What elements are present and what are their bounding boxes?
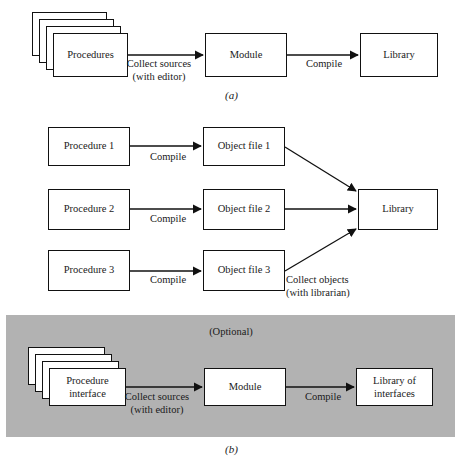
collect-objects-line1: Collect objects (286, 274, 370, 287)
procedure-interface-line2: interface (69, 387, 106, 400)
node-procedure-1[interactable]: Procedure 1 (48, 127, 130, 166)
node-library-a[interactable]: Library (360, 33, 438, 77)
node-library-of-interfaces[interactable]: Library of interfaces (356, 368, 433, 406)
caption-a: (a) (0, 89, 463, 101)
node-object-file-3[interactable]: Object file 3 (203, 250, 285, 291)
edge-label-compile-1: Compile (134, 151, 202, 164)
edge-label-collect-sources-a: Collect sources (with editor) (123, 58, 195, 84)
collect-sources-a-line1: Collect sources (123, 58, 195, 71)
node-module-a[interactable]: Module (205, 33, 287, 77)
edge-label-compile-a: Compile (292, 58, 356, 71)
figure-root: Procedures Module Library Collect source… (0, 0, 463, 464)
edge-label-collect-sources-b: Collect sources (with editor) (121, 391, 193, 417)
edge-label-collect-objects: Collect objects (with librarian) (286, 274, 370, 300)
node-procedure-interface[interactable]: Procedure interface (49, 368, 126, 406)
arrow-object-file-1-to-library (285, 147, 356, 191)
collect-sources-a-line2: (with editor) (123, 71, 195, 84)
node-module-b[interactable]: Module (204, 368, 286, 406)
node-procedures[interactable]: Procedures (53, 33, 128, 77)
node-object-file-2[interactable]: Object file 2 (203, 189, 285, 230)
optional-panel-label: (Optional) (181, 326, 281, 339)
edge-label-compile-2: Compile (134, 213, 202, 226)
collect-sources-b-line2: (with editor) (121, 404, 193, 417)
node-procedure-3[interactable]: Procedure 3 (48, 250, 130, 291)
arrow-object-file-3-to-library (285, 229, 356, 271)
library-of-interfaces-line2: interfaces (374, 387, 415, 400)
node-library-b[interactable]: Library (358, 189, 438, 230)
collect-objects-line2: (with librarian) (286, 287, 370, 300)
caption-b: (b) (0, 443, 463, 455)
procedure-interface-line1: Procedure (66, 374, 109, 387)
node-procedure-2[interactable]: Procedure 2 (48, 189, 130, 230)
collect-sources-b-line1: Collect sources (121, 391, 193, 404)
edge-label-compile-b: Compile (291, 391, 355, 404)
node-object-file-1[interactable]: Object file 1 (203, 127, 285, 166)
library-of-interfaces-line1: Library of (373, 374, 416, 387)
edge-label-compile-3: Compile (134, 274, 202, 287)
